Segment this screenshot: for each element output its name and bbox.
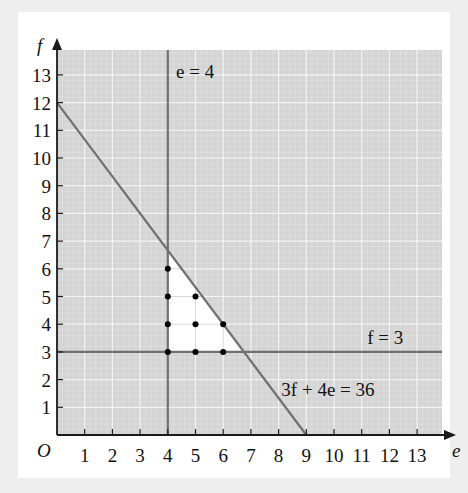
x-tick-label: 6 [218, 445, 228, 466]
y-tick-label: 5 [42, 287, 52, 308]
y-tick-label: 11 [33, 120, 51, 141]
x-tick-label: 5 [191, 445, 201, 466]
x-tick-label: 7 [246, 445, 256, 466]
x-tick-label: 3 [135, 445, 145, 466]
grid-background [57, 50, 442, 435]
y-tick-label: 10 [32, 148, 51, 169]
x-tick-label: 4 [163, 445, 173, 466]
lattice-point [165, 321, 171, 327]
annotation-0: e = 4 [176, 61, 215, 82]
lattice-point [165, 349, 171, 355]
y-tick-label: 2 [42, 370, 52, 391]
y-tick-label: 13 [32, 65, 51, 86]
lattice-point [193, 321, 199, 327]
lattice-point [193, 349, 199, 355]
x-tick-label: 12 [380, 445, 399, 466]
y-tick-label: 12 [32, 93, 51, 114]
y-axis-arrow-icon [52, 38, 62, 50]
lattice-point [220, 349, 226, 355]
y-tick-label: 9 [42, 176, 52, 197]
lattice-point [193, 294, 199, 300]
y-tick-label: 6 [42, 259, 52, 280]
y-tick-label: 3 [42, 342, 52, 363]
origin-label: O [37, 440, 51, 461]
y-tick-label: 4 [42, 314, 52, 335]
lattice-point [165, 266, 171, 272]
x-tick-label: 8 [274, 445, 284, 466]
y-tick-label: 8 [42, 203, 52, 224]
chart: 1234567891011121312345678910111213efOe =… [0, 0, 468, 493]
x-tick-label: 10 [325, 445, 344, 466]
x-tick-label: 2 [108, 445, 118, 466]
lattice-point [220, 321, 226, 327]
x-tick-label: 11 [353, 445, 371, 466]
x-tick-label: 9 [302, 445, 312, 466]
lattice-point [165, 294, 171, 300]
annotation-2: 3f + 4e = 36 [281, 379, 374, 400]
x-tick-label: 1 [80, 445, 90, 466]
x-tick-label: 13 [408, 445, 427, 466]
annotation-1: f = 3 [367, 327, 403, 348]
y-tick-label: 7 [42, 231, 52, 252]
y-tick-label: 1 [42, 397, 52, 418]
y-axis-label: f [37, 35, 45, 56]
x-axis-label: e [452, 440, 460, 461]
x-axis-arrow-icon [444, 430, 456, 440]
